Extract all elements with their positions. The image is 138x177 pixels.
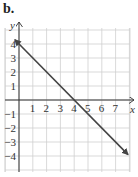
x-tick-label: 4 [71,102,77,114]
y-tick-label: −1 [4,108,16,120]
y-tick-label: 2 [11,66,17,78]
y-tick-label: −2 [4,122,16,134]
y-tick-label: −3 [4,136,16,148]
x-tick-label: 2 [44,102,50,114]
y-axis-label: y [9,19,15,31]
y-tick-label: 1 [11,80,17,92]
x-tick-label: 1 [30,102,36,114]
x-tick-label: 7 [113,102,119,114]
x-tick-label: 6 [99,102,105,114]
x-tick-label: 3 [57,102,63,114]
y-tick-label: −4 [4,150,16,162]
coordinate-plane-chart: xy12345674321−1−2−3−4 [0,0,138,177]
data-line [15,40,128,155]
x-axis-label: x [129,103,135,115]
y-tick-label: 3 [11,52,17,64]
